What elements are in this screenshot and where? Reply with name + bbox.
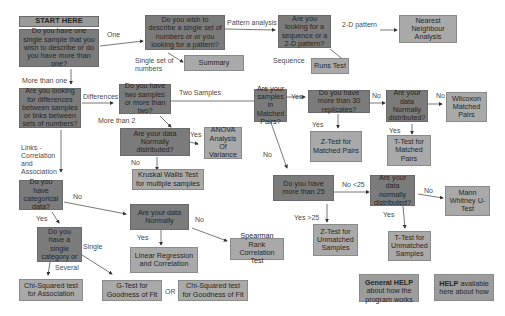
general-help-text: about how the program works: [365, 286, 413, 303]
two-or-more-samples-question[interactable]: Do you have two samples or more than two…: [119, 84, 171, 114]
single-category-question[interactable]: Do you have a single category or: [37, 227, 82, 262]
normal-more-than-2-question[interactable]: Are your data Normally distributed?: [120, 128, 190, 156]
more-than-30-question[interactable]: Do you have more than 30 replicates?: [308, 90, 370, 113]
edge-label-more-than-2: More than 2: [98, 117, 135, 125]
edge-label-yes-normal-unmatched: Yes: [383, 211, 394, 219]
edge-label-no-categorical: No: [73, 193, 82, 201]
edge-label-yes-gt25: Yes >25: [294, 214, 319, 222]
edge-label-one: One: [107, 31, 120, 39]
wilcoxon-result[interactable]: Wilcoxon Matched Pairs: [446, 92, 487, 122]
edge-label-differences: Differences: [83, 93, 118, 101]
edge-label-yes-normal-matched: Yes: [389, 127, 400, 135]
normal-links-question[interactable]: Are your data Normally: [130, 204, 189, 230]
edge-label-yes-normal-links: Yes: [137, 234, 148, 242]
edge-label-no-normal-matched: No: [436, 92, 445, 100]
edge-label-yes-matched: Yes: [291, 93, 302, 101]
edge-label-yes-categorical: Yes: [36, 215, 47, 223]
describe-or-pattern-question[interactable]: Do you wish to describe a single set of …: [145, 15, 225, 50]
matched-pairs-question[interactable]: Are your samples in Matched Pairs?: [254, 89, 287, 122]
edge-label-links: Links - Correlation and Association: [21, 144, 61, 176]
summary-result[interactable]: Summary: [184, 55, 244, 71]
edge-label-no-kruskal: No: [131, 159, 140, 167]
kruskal-wallis-result[interactable]: Kruskal Wallis Test for multiple samples: [132, 169, 204, 190]
edge-label-or: OR: [165, 288, 176, 296]
mann-whitney-result[interactable]: Mann Whitney U-Test: [445, 186, 490, 216]
anova-result[interactable]: ANOVA Analysis Of Variance: [204, 127, 242, 159]
edge-label-2d-pattern: 2-D pattern: [342, 21, 377, 29]
normal-matched-question[interactable]: Are your data Normally distributed?: [386, 90, 428, 122]
categorical-question[interactable]: Do you have categorical data?: [19, 180, 63, 210]
z-test-matched-result[interactable]: Z-Test for Matched Pairs: [310, 131, 362, 162]
edge-label-several: Several: [55, 264, 79, 272]
edge-label-yes-30: Yes: [312, 121, 323, 129]
edge-label-single-set: Single set of numbers: [135, 57, 175, 73]
general-help-button[interactable]: General HELP about how the program works: [359, 274, 419, 302]
linear-regression-result[interactable]: Linear Regression and Correlation: [130, 247, 198, 273]
z-test-unmatched-result[interactable]: Z-Test for Unmatched Samples: [313, 224, 358, 256]
nearest-neighbour-result[interactable]: Nearest Neighbour Analysis: [399, 15, 457, 43]
edge-label-two-samples: Two Samples: [179, 89, 221, 97]
more-than-25-question[interactable]: Do you have more than 25: [273, 175, 334, 201]
differences-or-links-question[interactable]: Are you looking for differences between …: [19, 88, 81, 128]
sequence-or-2d-question[interactable]: Are you looking for a sequence or a 2-D …: [278, 15, 331, 48]
edge-label-no-normal-unmatched: No: [424, 187, 433, 195]
edge-label-sequence: Sequence: [273, 57, 305, 65]
help-available-button[interactable]: HELP available here about how: [434, 274, 494, 301]
t-test-unmatched-result[interactable]: T-Test for Unmatched Samples: [388, 231, 431, 261]
g-test-result[interactable]: G-Test for Goodness of Fit: [102, 280, 162, 301]
edge-label-no-normal-links: No: [195, 216, 204, 224]
chi-goodness-result[interactable]: Chi-Squared test for Goodness of Fit: [178, 280, 248, 301]
edge-label-no-lt25: No <25: [342, 181, 365, 189]
edge-label-no-matched: No: [263, 151, 272, 159]
chi-association-result[interactable]: Chi-Squared test for Association: [19, 279, 83, 301]
runs-test-result[interactable]: Runs Test: [311, 58, 349, 74]
spearman-result[interactable]: Spearman Rank Correlation Test: [230, 238, 284, 260]
edge-label-pattern-analysis: Pattern analysis: [227, 19, 277, 27]
normal-unmatched-question[interactable]: Are your data normally distributed?: [370, 175, 415, 206]
t-test-matched-result[interactable]: T-Test for Matched Pairs: [387, 135, 431, 166]
edge-label-more-than-one: More than one: [22, 77, 67, 85]
one-or-more-samples-question[interactable]: Do you have one single sample that you w…: [19, 29, 99, 67]
edge-label-single: Single: [83, 243, 102, 251]
edge-label-yes-anova: Yes: [190, 131, 201, 139]
edge-label-no-30: No: [372, 92, 381, 100]
